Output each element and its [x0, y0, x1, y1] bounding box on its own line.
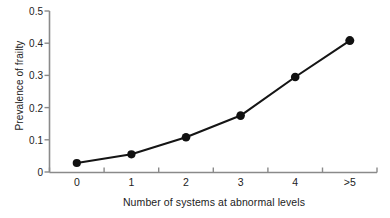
data-point — [345, 36, 354, 45]
x-tick-label: 1 — [128, 176, 134, 188]
chart-canvas — [0, 0, 390, 218]
data-markers — [73, 36, 355, 167]
chart-figure: 0.5 0.4 0.3 0.2 0.1 0 0 1 2 3 4 >5 Preva… — [0, 0, 390, 218]
data-point — [182, 133, 191, 142]
x-tick-label: 4 — [292, 176, 298, 188]
y-tick-label: 0 — [19, 167, 43, 178]
data-point — [127, 150, 135, 158]
x-axis-title: Number of systems at abnormal levels — [49, 196, 379, 208]
x-tick-label: >5 — [344, 176, 356, 188]
x-tick-label: 2 — [183, 176, 189, 188]
x-tick-label: 0 — [74, 176, 80, 188]
y-axis-title: Prevalence of frailty — [14, 11, 25, 161]
data-line — [77, 41, 350, 163]
data-point — [73, 159, 81, 167]
data-point — [291, 73, 300, 82]
data-point — [236, 111, 245, 120]
x-tick-label: 3 — [238, 176, 244, 188]
